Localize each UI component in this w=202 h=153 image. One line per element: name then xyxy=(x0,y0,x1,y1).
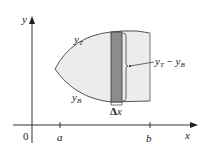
strip-width-label: Δx xyxy=(110,105,122,117)
y-axis-label: y xyxy=(21,13,27,25)
origin-label: 0 xyxy=(23,130,29,142)
top-curve-label: yT xyxy=(73,33,84,47)
tick-label-b: b xyxy=(146,132,152,144)
x-axis-label: x xyxy=(184,129,190,141)
strip-height-label: yT − yB xyxy=(154,55,185,69)
x-axis-arrow-icon xyxy=(190,122,198,128)
tick-label-a: a xyxy=(57,131,63,143)
area-between-curves-diagram: y x 0 a b yT yB yT − yB Δx xyxy=(0,0,202,153)
approximating-strip xyxy=(111,32,122,102)
y-axis-arrow-icon xyxy=(29,16,35,24)
region-between-curves xyxy=(55,31,150,102)
bottom-curve-label: yB xyxy=(71,91,82,105)
